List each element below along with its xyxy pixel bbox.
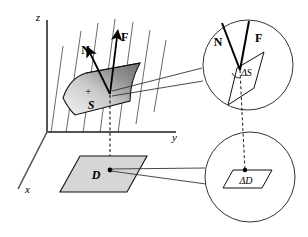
y-axis-label: y [171,131,177,143]
region-d-point [108,168,113,173]
field-vector-label: F [121,30,128,44]
inset-normal-vector [222,23,240,70]
vector-field-flux-diagram: z y x + S N F [0,0,308,237]
surface-s-patch [63,63,140,115]
z-axis-label: z [35,11,41,23]
inset-lower-point [243,168,247,172]
region-d-label: D [91,168,101,182]
inset-field-vector-label: F [255,31,262,45]
inset-patch-delta-d-label: ΔD [238,175,253,186]
inset-upper-circle: N F ΔS [203,20,293,112]
figure-container: z y x + S N F [0,0,308,237]
field-line [136,30,150,124]
surface-s-label: S [88,98,95,112]
inset-lower-circle: ΔD [205,132,295,222]
inset-normal-vector-label: N [214,35,223,49]
field-line [154,40,166,112]
inset-upper-patch-delta-s [228,52,264,105]
normal-vector-label: N [81,43,90,57]
surface-orientation-marker: + [85,85,91,97]
inset-field-vector [240,21,249,70]
surface-s: + S [63,63,140,115]
x-axis [18,132,47,189]
x-axis-label: x [24,183,30,195]
inset-link-dashed [242,112,245,170]
field-line [51,46,63,133]
inset-patch-delta-s-label: ΔS [240,67,252,78]
inset-upper-boundary [203,20,293,110]
